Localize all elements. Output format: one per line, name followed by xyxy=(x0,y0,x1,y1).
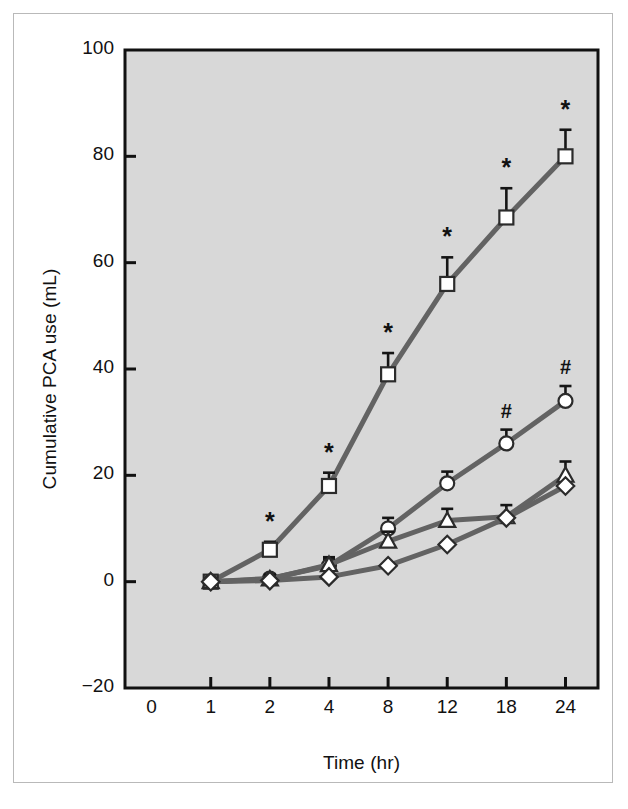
asterisk-annotation: * xyxy=(265,507,275,535)
y-tick-label: 60 xyxy=(20,250,114,272)
hash-annotation: # xyxy=(501,400,512,422)
x-tick-label: 8 xyxy=(358,696,418,718)
data-point-marker-square xyxy=(558,149,572,163)
figure-page: ******## Cumulative PCA use (mL) Time (h… xyxy=(0,0,628,809)
y-tick-label: −20 xyxy=(20,675,114,697)
x-tick-label: 18 xyxy=(476,696,536,718)
data-point-marker-square xyxy=(381,367,395,381)
asterisk-annotation: * xyxy=(383,318,393,346)
asterisk-annotation: * xyxy=(561,95,571,123)
x-axis-title: Time (hr) xyxy=(125,752,598,774)
x-tick-label: 0 xyxy=(122,696,182,718)
data-point-marker-square xyxy=(440,277,454,291)
asterisk-annotation: * xyxy=(501,153,511,181)
y-tick-label: 20 xyxy=(20,462,114,484)
x-tick-label: 4 xyxy=(299,696,359,718)
data-point-marker-square xyxy=(263,543,277,557)
data-point-marker-circle xyxy=(558,394,572,408)
y-tick-label: 40 xyxy=(20,356,114,378)
asterisk-annotation: * xyxy=(442,222,452,250)
y-tick-label: 80 xyxy=(20,143,114,165)
hash-annotation: # xyxy=(560,356,571,378)
x-tick-label: 24 xyxy=(535,696,595,718)
data-point-marker-circle xyxy=(440,476,454,490)
y-tick-label: 0 xyxy=(20,569,114,591)
data-point-marker-circle xyxy=(499,436,513,450)
y-tick-label: 100 xyxy=(20,37,114,59)
x-tick-label: 1 xyxy=(181,696,241,718)
x-tick-label: 12 xyxy=(417,696,477,718)
plot-area-background xyxy=(125,50,598,688)
x-tick-label: 2 xyxy=(240,696,300,718)
data-point-marker-square xyxy=(499,210,513,224)
asterisk-annotation: * xyxy=(324,438,334,466)
data-point-marker-square xyxy=(322,479,336,493)
